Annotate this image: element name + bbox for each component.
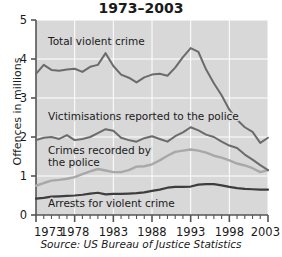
x-tick-label: 1978 [60,225,89,239]
x-tick-label: 1998 [215,225,244,239]
y-axis: 012345 [20,13,36,222]
y-tick-label: 3 [20,91,27,105]
x-axis-ticks: 1973197819831988199319982003 [34,215,280,239]
label-arrests: Arrests for violent crime [48,197,175,209]
y-tick-label: 5 [20,13,27,27]
label-victimisations: Victimisations reported to the police [48,110,239,122]
line-chart-plot: 012345 1973197819831988199319982003 Tota… [0,0,282,257]
x-axis: 1973197819831988199319982003 [34,215,280,239]
x-tick-label: 1983 [99,225,128,239]
label-crimes-recorded-line1: Crimes recorded by [48,144,151,156]
label-total-violent-crime: Total violent crime [47,35,145,47]
source-note: Source: US Bureau of Justice Statistics [0,238,282,250]
y-tick-label: 4 [20,52,27,66]
x-tick-label: 1973 [34,225,63,239]
x-tick-label: 1993 [176,225,205,239]
y-tick-label: 2 [20,130,27,144]
y-axis-ticks: 012345 [20,13,36,222]
label-crimes-recorded-line2: the police [48,156,100,168]
y-tick-label: 0 [20,208,27,222]
y-tick-label: 1 [20,169,27,183]
x-tick-label: 1988 [137,225,166,239]
x-tick-label: 2003 [251,225,280,239]
chart-container: 1973–2003 Offences in millions 012345 19… [0,0,282,257]
